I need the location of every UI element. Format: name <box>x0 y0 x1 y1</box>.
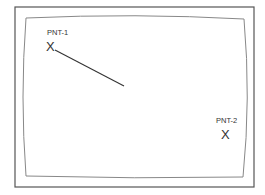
point-1-label: PNT-1 <box>47 28 68 37</box>
inner-distorted-frame <box>23 16 247 178</box>
diagram-canvas: PNT-1 X PNT-2 X <box>0 0 265 195</box>
connector-line <box>55 50 124 86</box>
point-2-label: PNT-2 <box>216 116 237 125</box>
point-2-marker[interactable]: X <box>221 127 230 142</box>
point-1-marker[interactable]: X <box>46 39 55 54</box>
